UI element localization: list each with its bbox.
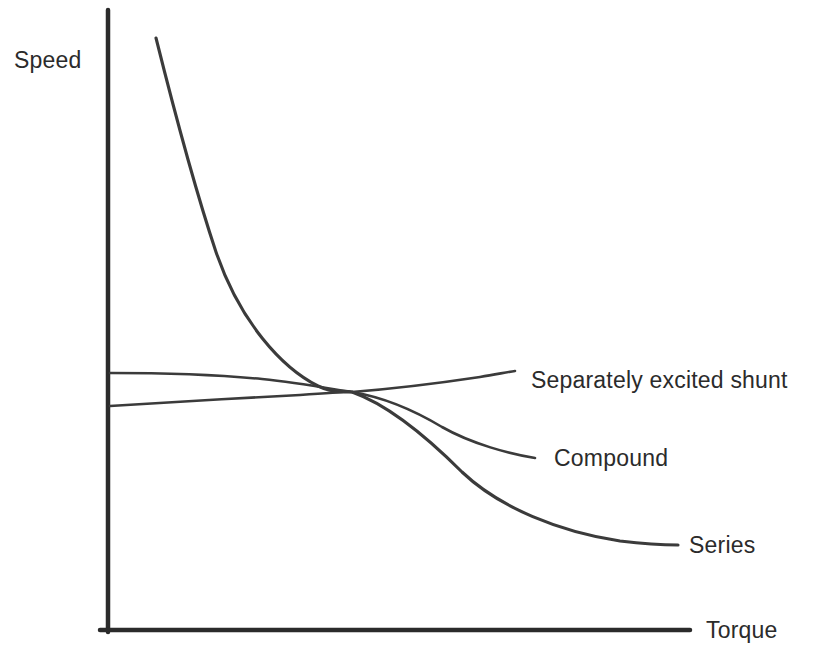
plot-canvas — [0, 0, 829, 666]
curve-compound — [110, 373, 535, 458]
curve-label-separately-excited-shunt: Separately excited shunt — [531, 367, 788, 394]
curve-separately-excited-shunt — [110, 371, 515, 406]
curve-label-series: Series — [689, 532, 755, 559]
speed-torque-characteristic-figure: Speed Torque Separately excited shunt Co… — [0, 0, 829, 666]
y-axis-label: Speed — [14, 47, 82, 74]
curve-label-compound: Compound — [554, 445, 668, 472]
x-axis-label: Torque — [706, 617, 778, 644]
